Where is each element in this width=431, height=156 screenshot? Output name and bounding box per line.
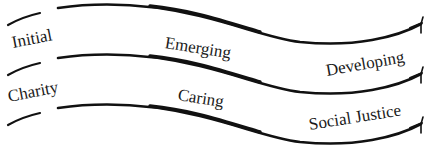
ribbon-diagram: Initial Emerging Developing Charity Cari… <box>0 0 431 156</box>
top-ribbon-line <box>8 5 423 44</box>
ribbon-lines <box>0 0 431 156</box>
